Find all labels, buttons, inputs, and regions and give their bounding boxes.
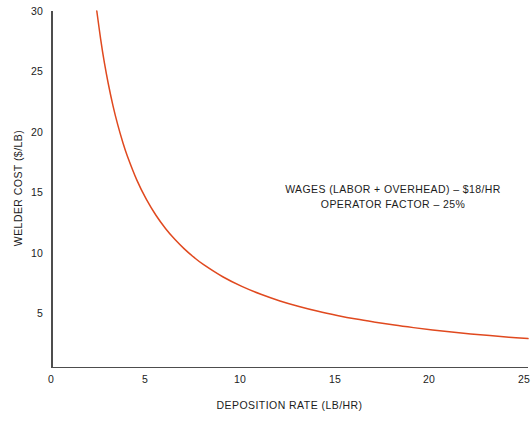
y-tick-label-25: 25 [17, 65, 43, 77]
x-tick-label-10: 10 [234, 373, 246, 385]
annotation-line-operator-factor: OPERATOR FACTOR – 25% [268, 197, 518, 212]
x-axis-line [51, 367, 528, 369]
series-line-welder-cost [97, 11, 528, 339]
x-tick-label-15: 15 [329, 373, 341, 385]
chart-container: 0 5 10 15 20 25 5 10 15 20 25 30 DEPOSIT… [0, 0, 532, 433]
y-axis-title: WELDER COST ($/LB) [12, 88, 24, 288]
annotation-line-wages: WAGES (LABOR + OVERHEAD) – $18/HR [268, 182, 518, 197]
y-tick-label-30: 30 [17, 5, 43, 17]
x-tick-label-25: 25 [518, 373, 530, 385]
y-tick-label-5: 5 [17, 307, 43, 319]
x-axis-title: DEPOSITION RATE (LB/HR) [51, 399, 528, 411]
y-axis-line [51, 11, 53, 368]
x-tick-label-20: 20 [423, 373, 435, 385]
x-tick-label-5: 5 [142, 373, 148, 385]
chart-annotation: WAGES (LABOR + OVERHEAD) – $18/HR OPERAT… [268, 182, 518, 212]
x-tick-label-0: 0 [48, 373, 54, 385]
